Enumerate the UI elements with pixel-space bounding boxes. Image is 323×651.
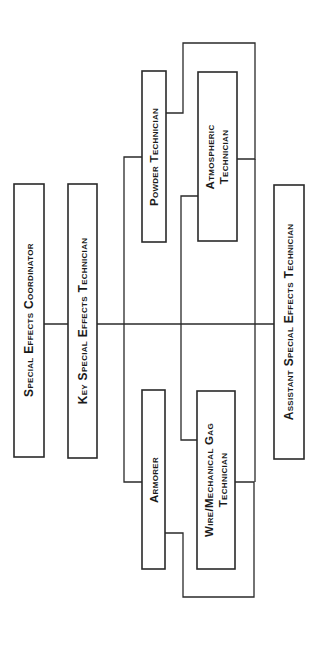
node-wire-label-line1: Wire/Mechanical Gag (203, 423, 215, 537)
org-chart: Special Effects Coordinator Key Special … (0, 0, 323, 651)
node-key-label: Key Special Effects Technician (76, 238, 90, 405)
node-atmospheric: Atmospheric Technician (198, 72, 237, 241)
node-coordinator: Special Effects Coordinator (14, 184, 44, 457)
node-armorer-label: Armorer (148, 457, 160, 503)
node-wire: Wire/Mechanical Gag Technician (197, 391, 235, 569)
node-powder: Powder Technician (142, 71, 166, 242)
node-armorer: Armorer (142, 390, 165, 569)
connector-wire (181, 324, 197, 440)
connector-powder (124, 157, 142, 324)
node-atmospheric-label-line2: Technician (218, 130, 230, 184)
connector-atmospheric (181, 196, 198, 324)
node-key: Key Special Effects Technician (68, 184, 97, 458)
node-atmospheric-label-line1: Atmospheric (204, 125, 216, 190)
node-assistant: Assistant Special Effects Technician (274, 185, 304, 459)
node-coordinator-label: Special Effects Coordinator (22, 243, 36, 397)
connector-armorer (124, 324, 142, 482)
node-assistant-label: Assistant Special Effects Technician (282, 224, 296, 421)
node-powder-label: Powder Technician (148, 108, 160, 206)
node-wire-label-line2: Technician (217, 453, 229, 507)
